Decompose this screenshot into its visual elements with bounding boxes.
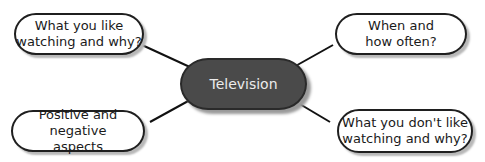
node-dislikes: What you don't like watching and why? <box>337 109 473 153</box>
node-frequency: When and how often? <box>335 13 467 55</box>
center-node-television: Television <box>180 58 307 110</box>
node-aspects: Positive and negative aspects <box>11 110 145 152</box>
node-likes: What you like watching and why? <box>14 13 144 55</box>
center-label: Television <box>209 76 277 92</box>
node-label: Positive and negative aspects <box>23 107 133 155</box>
node-label: What you don't like watching and why? <box>339 115 471 147</box>
node-label: When and how often? <box>356 18 446 50</box>
node-label: What you like watching and why? <box>16 18 142 50</box>
